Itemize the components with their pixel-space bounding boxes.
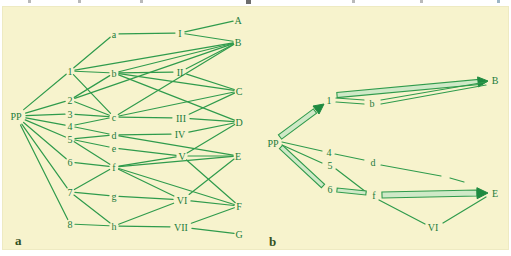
cropped-text-remnant [140, 0, 143, 3]
node-label-a-1: 1 [68, 66, 73, 77]
edge-5-d [75, 135, 109, 138]
edge-PP-4 [26, 118, 65, 125]
edge-VI-F [191, 201, 234, 206]
node-label-a-a: a [112, 29, 117, 40]
edge-VI-E [189, 159, 234, 194]
edge-c-III [119, 117, 172, 118]
cropped-text-remnant [420, 0, 423, 3]
edge-1-b [75, 71, 109, 73]
node-label-a-6: 6 [68, 157, 73, 168]
node-label-b-b: b [370, 98, 375, 109]
node-label-b-VI: VI [428, 222, 439, 233]
cropped-text-remnant [352, 0, 355, 3]
node-label-b-PP: PP [267, 138, 279, 149]
panel-b-label: b [269, 235, 276, 248]
edge-b-II [119, 72, 173, 73]
node-label-a-h: h [112, 221, 117, 232]
edge-V-D [187, 125, 235, 153]
node-label-a-I: I [178, 28, 181, 39]
node-label-a-5: 5 [68, 134, 73, 145]
edge-PP-8 [20, 125, 67, 220]
edge-g-VI [119, 196, 173, 199]
node-label-a-7: 7 [68, 187, 73, 198]
edge-II-B [186, 44, 233, 68]
node-label-a-PP: PP [10, 111, 22, 122]
node-label-b-E: E [492, 188, 498, 199]
pp-to-6-band [279, 145, 324, 187]
node-label-a-IV: IV [175, 129, 186, 140]
node-label-a-2: 2 [68, 95, 73, 106]
node-label-b-1: 1 [327, 95, 332, 106]
edge-PP-1 [24, 74, 66, 109]
panel-a-label: a [15, 234, 22, 247]
node-label-b-4: 4 [327, 147, 332, 158]
node-label-a-g: g [112, 191, 117, 202]
edge-3-c [75, 114, 109, 116]
node-label-a-II: II [177, 67, 184, 78]
node-label-a-F: F [236, 201, 242, 212]
node-label-a-B: B [235, 37, 242, 48]
node-label-b-f: f [372, 190, 376, 201]
edge-7-h [74, 195, 110, 223]
cropped-text-remnant [497, 0, 500, 3]
node-label-a-III: III [176, 113, 186, 124]
pp-to-1-band-arrow-shaft [278, 109, 316, 139]
node-label-a-d: d [112, 130, 117, 141]
node-label-a-4: 4 [68, 121, 73, 132]
node-label-a-D: D [235, 117, 242, 128]
edge-7-f [74, 169, 109, 189]
edge-7-g [75, 192, 109, 195]
VI-E-line [443, 197, 486, 223]
edge-PP-7 [22, 124, 67, 188]
solution-network-diagram: PP12345678abcdefghIIIIIIIVVVIVIIABCDEFGP… [0, 0, 511, 256]
1-b-double-top [336, 98, 364, 100]
edge-4-d [75, 127, 109, 134]
node-label-a-VII: VII [174, 222, 188, 233]
node-label-b-5: 5 [328, 160, 333, 171]
edge-1-a [74, 37, 110, 68]
node-label-a-8: 8 [68, 219, 73, 230]
edge-2-c [75, 102, 110, 115]
edge-6-f [75, 163, 109, 167]
edge-a-I [119, 33, 175, 34]
edge-2-B [75, 44, 234, 99]
edge-III-D [190, 119, 234, 122]
4-d-line [335, 154, 364, 160]
edge-d-IV [119, 134, 171, 135]
edge-4-c [75, 118, 109, 125]
cropped-text-remnant [78, 0, 81, 3]
edge-V-F [187, 160, 236, 203]
d-E-dashed-segment-1 [381, 165, 441, 176]
edge-PP-3 [26, 114, 65, 115]
node-label-a-b: b [112, 68, 117, 79]
edge-h-VI [119, 203, 174, 224]
node-label-a-c: c [112, 112, 117, 123]
edge-VII-F [191, 208, 234, 224]
edge-I-A [185, 21, 233, 32]
cropped-text-remnant [28, 0, 31, 3]
node-label-b-6: 6 [328, 184, 333, 195]
f-VI-line [379, 200, 425, 224]
node-label-a-V: V [178, 151, 186, 162]
node-label-a-A: A [234, 15, 242, 26]
edge-VII-G [192, 228, 234, 233]
node-label-a-G: G [235, 229, 242, 240]
node-label-a-3: 3 [68, 109, 73, 120]
d-E-dashed-segment-2 [450, 178, 464, 182]
edge-I-B [185, 34, 233, 41]
node-label-a-VI: VI [177, 195, 188, 206]
edge-IV-D [189, 123, 234, 132]
edge-f-E [119, 156, 233, 166]
node-label-a-C: C [236, 86, 243, 97]
f-to-E-band-arrow-shaft [382, 190, 477, 198]
1-b-double-bottom [336, 102, 364, 104]
cropped-text-remnant [246, 0, 251, 4]
node-label-a-E: E [235, 151, 241, 162]
node-label-a-e: e [112, 143, 117, 154]
node-label-b-B: B [492, 75, 499, 86]
node-label-b-d: d [371, 157, 376, 168]
edge-8-h [75, 224, 109, 226]
node-label-a-f: f [112, 162, 116, 173]
edge-f-V [119, 157, 176, 166]
edge-e-V [119, 149, 176, 156]
